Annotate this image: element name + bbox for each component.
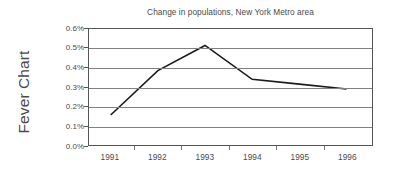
- gridline: [89, 68, 372, 69]
- y-axis-title-text: Fever Chart: [15, 50, 33, 133]
- x-axis-tick-label: 1993: [180, 152, 230, 162]
- plot-area: [88, 28, 373, 146]
- y-axis-tick-label: 0.4%: [48, 63, 84, 72]
- x-axis-tick-label: 1994: [227, 152, 277, 162]
- x-axis-tick-label: 1991: [85, 152, 135, 162]
- chart-title: Change in populations, New York Metro ar…: [88, 7, 373, 17]
- y-axis-tick-mark: [84, 87, 88, 88]
- y-axis-tick-label: 0.1%: [48, 122, 84, 131]
- y-axis-tick-label: 0.6%: [48, 24, 84, 33]
- y-axis-tick-label: 0.3%: [48, 83, 84, 92]
- series-line-path: [111, 45, 347, 115]
- y-axis-tick-mark: [84, 106, 88, 107]
- x-axis-tick-mark: [181, 146, 182, 150]
- x-axis-tick-labels: 199119921993199419951996: [0, 152, 393, 166]
- fever-chart-figure: Fever Chart Change in populations, New Y…: [0, 0, 393, 183]
- y-axis-tick-mark: [84, 28, 88, 29]
- gridline: [89, 127, 372, 128]
- y-axis-tick-mark: [84, 126, 88, 127]
- y-axis-tick-labels: 0.0%0.1%0.2%0.3%0.4%0.5%0.6%: [44, 28, 84, 146]
- y-axis-tick-label: 0.2%: [48, 102, 84, 111]
- x-axis-tick-mark: [324, 146, 325, 150]
- gridline: [89, 48, 372, 49]
- x-axis-tick-mark: [276, 146, 277, 150]
- y-axis-tick-label: 0.0%: [48, 142, 84, 151]
- x-axis-tick-mark: [229, 146, 230, 150]
- x-axis-tick-label: 1992: [132, 152, 182, 162]
- x-axis-tick-label: 1995: [275, 152, 325, 162]
- y-axis-tick-mark: [84, 67, 88, 68]
- y-axis-tick-mark: [84, 146, 88, 147]
- gridline: [89, 88, 372, 89]
- y-axis-tick-mark: [84, 47, 88, 48]
- x-axis-tick-mark: [134, 146, 135, 150]
- gridline: [89, 107, 372, 108]
- x-axis-tick-label: 1996: [322, 152, 372, 162]
- y-axis-tick-label: 0.5%: [48, 43, 84, 52]
